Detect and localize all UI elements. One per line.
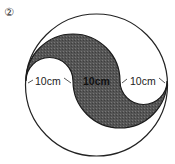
segment-label-middle: 10cm: [83, 75, 110, 87]
segment-label-left: 10cm: [35, 75, 61, 87]
segment-label-right: 10cm: [130, 75, 156, 87]
yin-yang-figure: 10cm 10cm 10cm: [0, 0, 175, 164]
